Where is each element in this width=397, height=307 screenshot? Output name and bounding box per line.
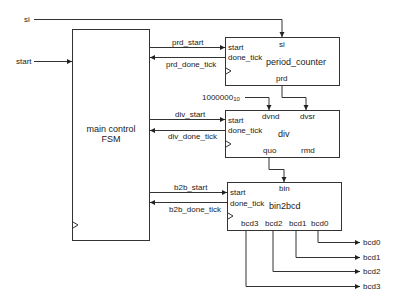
pc-port-prd: prd xyxy=(276,74,288,83)
pc-port-done-tick: done_tick xyxy=(228,53,262,62)
b2b-start-signal: b2b_start xyxy=(174,183,207,192)
div-port-dvsr: dvsr xyxy=(300,112,315,121)
b2b-port-bcd0: bcd0 xyxy=(311,219,328,228)
pc-port-si: si xyxy=(279,40,285,49)
bin2bcd-label: bin2bcd xyxy=(269,201,301,211)
div-port-dvnd: dvnd xyxy=(262,112,279,121)
div-port-start: start xyxy=(228,116,244,125)
output-bcd3: bcd3 xyxy=(363,282,380,291)
div-port-rmd: rmd xyxy=(301,146,315,155)
fsm-label-line1: main control xyxy=(72,124,150,134)
div-constant-value: 1000000 xyxy=(202,93,233,102)
div-port-done-tick: done_tick xyxy=(228,126,262,135)
div-label: div xyxy=(278,129,290,139)
bin2bcd-clock-icon xyxy=(228,213,233,219)
output-bcd2: bcd2 xyxy=(363,267,380,276)
si-input-label: si xyxy=(24,15,30,24)
output-bcd1: bcd1 xyxy=(363,253,380,262)
prd-done-tick-signal: prd_done_tick xyxy=(166,60,216,69)
b2b-port-bcd2: bcd2 xyxy=(265,219,282,228)
b2b-done-tick-signal: b2b_done_tick xyxy=(169,205,221,214)
div-constant: 100000010 xyxy=(202,93,240,104)
period-counter-label: period_counter xyxy=(266,57,326,67)
b2b-port-bin: bin xyxy=(279,184,290,193)
b2b-port-bcd3: bcd3 xyxy=(241,219,258,228)
div-done-tick-signal: div_done_tick xyxy=(168,132,217,141)
fsm-label: main control FSM xyxy=(72,124,150,144)
period-counter-clock-icon xyxy=(226,68,231,74)
b2b-port-bcd1: bcd1 xyxy=(289,219,306,228)
pc-port-start: start xyxy=(228,43,244,52)
prd-start-signal: prd_start xyxy=(172,38,204,47)
b2b-port-done-tick: done_tick xyxy=(230,199,264,208)
output-bcd0: bcd0 xyxy=(363,238,380,247)
b2b-port-start: start xyxy=(230,188,246,197)
fsm-label-line2: FSM xyxy=(72,134,150,144)
start-input-label: start xyxy=(16,57,32,66)
div-start-signal: div_start xyxy=(175,110,205,119)
div-clock-icon xyxy=(226,141,231,147)
div-port-quo: quo xyxy=(263,146,276,155)
fsm-clock-icon xyxy=(73,222,78,228)
div-constant-base: 10 xyxy=(233,96,240,102)
